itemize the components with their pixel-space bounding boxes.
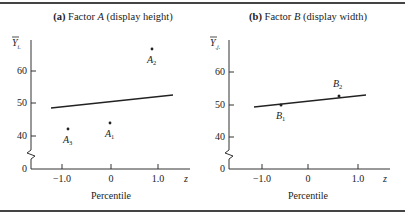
panel-a-ylabel: Yi. [12,37,21,50]
ytick-50: 50 [17,97,27,108]
panel-a-axis-break-icon [27,150,35,169]
label-a2: A2 [146,54,156,66]
panel-a-title: (a) Factor A (display height) [53,11,173,23]
panel-b-ylabel: Y.j. [210,37,220,50]
point-a3 [67,128,70,131]
ytick-40: 40 [17,130,27,141]
ytick-0: 0 [22,163,27,174]
panel-b-fit-line [254,95,366,107]
x-axis-var: z [183,173,188,184]
xtick-1: 1.0 [352,173,365,184]
xtick-1: 1.0 [152,173,165,184]
panel-a: (a) Factor A (display height) Yi. 60 50 … [12,11,190,201]
point-b2 [338,95,341,98]
panel-b-title: (b) Factor B (display width) [249,11,367,23]
label-a3: A3 [62,134,72,146]
x-axis-var: z [382,173,387,184]
ytick-60: 60 [215,66,225,77]
label-b2: B2 [333,78,342,90]
panel-b-axis-break-icon [225,150,233,169]
panel-b: (b) Factor B (display width) Y.j. 60 50 … [210,11,390,201]
point-b1 [280,104,283,107]
xtick-neg1: −1.0 [253,173,271,184]
panel-a-fit-line [51,95,173,108]
ytick-0: 0 [220,163,225,174]
label-a1: A1 [104,128,114,140]
ytick-40: 40 [215,131,225,142]
xtick-0: 0 [109,173,114,184]
point-a2 [151,48,154,51]
figure-canvas: (a) Factor A (display height) Yi. 60 50 … [0,0,405,214]
point-a1 [109,122,112,125]
ytick-60: 60 [17,65,27,76]
xtick-neg1: −1.0 [53,173,71,184]
panel-b-xlabel: Percentile [288,190,329,201]
ytick-50: 50 [215,99,225,110]
xtick-0: 0 [306,173,311,184]
label-b1: B1 [276,110,285,122]
panel-a-xlabel: Percentile [91,190,132,201]
